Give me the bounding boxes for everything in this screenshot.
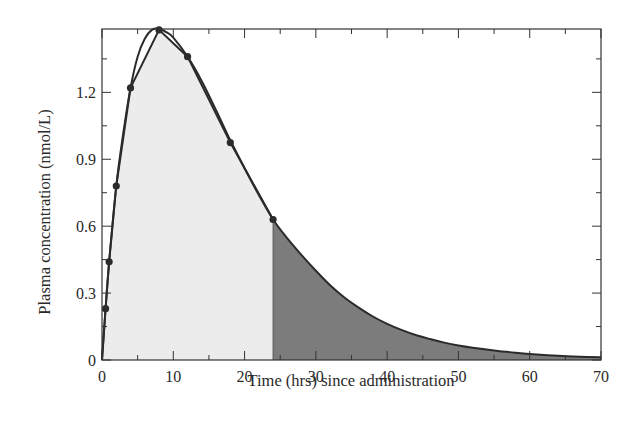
auc-24-inf-region — [273, 219, 601, 360]
x-tick-label: 10 — [165, 368, 181, 385]
y-axis-title: Plasma concentration (nmol/L) — [35, 109, 54, 314]
data-point-marker — [102, 305, 109, 312]
data-point-marker — [155, 26, 162, 33]
data-point-marker — [127, 84, 134, 91]
y-tick-label: 0 — [88, 352, 96, 369]
data-point-marker — [184, 53, 191, 60]
x-tick-label: 70 — [593, 368, 609, 385]
auc-0-24-region — [102, 30, 273, 360]
auc-shaded-regions — [102, 30, 601, 360]
pk-concentration-chart: 010203040506070 00.30.60.91.2 Time (hrs)… — [0, 0, 641, 440]
x-tick-label: 0 — [98, 368, 106, 385]
data-point-marker — [227, 139, 234, 146]
data-point-marker — [269, 216, 276, 223]
y-tick-label: 0.6 — [76, 218, 96, 235]
x-axis-title: Time (hrs) since administration — [248, 371, 455, 390]
x-tick-label: 60 — [522, 368, 538, 385]
y-tick-label: 0.3 — [76, 285, 96, 302]
y-tick-label: 0.9 — [76, 151, 96, 168]
data-point-marker — [113, 182, 120, 189]
y-tick-label: 1.2 — [76, 84, 96, 101]
